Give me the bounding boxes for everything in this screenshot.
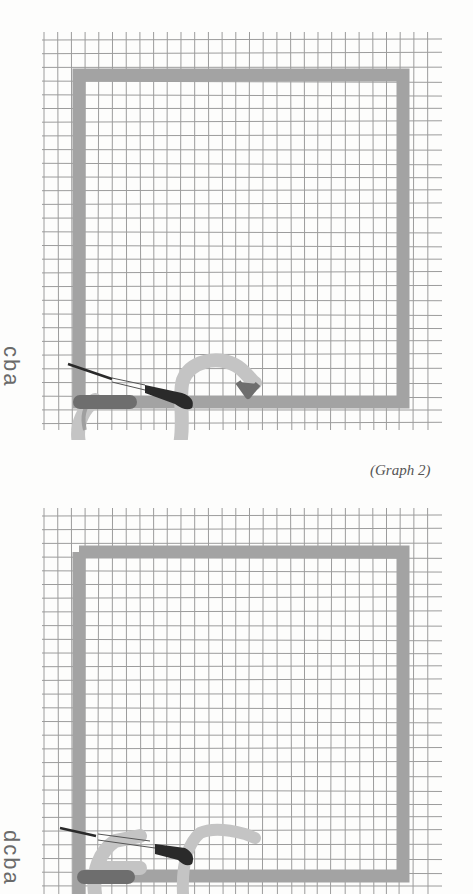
graph-grid <box>0 476 473 894</box>
step-labels: cba <box>0 346 24 387</box>
graph-2: dcba <box>0 476 473 894</box>
step-labels: dcba <box>0 830 24 886</box>
graph-1: cba (Graph 2) <box>0 0 473 440</box>
graph-grid <box>0 0 473 440</box>
frame-band <box>79 75 403 402</box>
